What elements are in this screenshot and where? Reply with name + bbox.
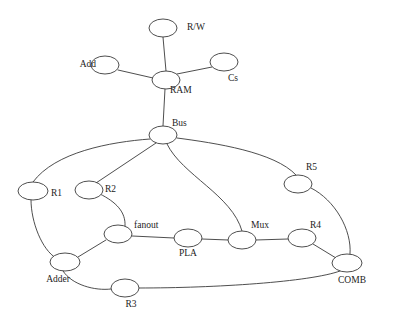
graph-node-label-cs: Cs: [228, 73, 238, 83]
graph-node-r1[interactable]: [18, 182, 48, 200]
graph-edge-fanout-pla: [132, 236, 174, 238]
graph-node-rw[interactable]: [149, 19, 177, 37]
graph-node-comb[interactable]: [332, 254, 362, 272]
graph-edge-fanout-adder: [78, 240, 106, 257]
graph-node-label-r3: R3: [125, 299, 136, 309]
label-layer: R/WAddRAMCsBusR1R2R5fanoutPLAMuxR4AdderR…: [46, 22, 366, 309]
graph-edge-r3-comb: [139, 271, 340, 288]
graph-edge-pla-mux: [202, 239, 228, 240]
graph-node-cs[interactable]: [210, 53, 238, 71]
graph-node-label-adder: Adder: [46, 274, 71, 284]
graph-node-label-mux: Mux: [251, 220, 269, 230]
graph-edge-adder-r3: [63, 271, 111, 289]
graph-node-label-r1: R1: [51, 188, 62, 198]
graph-node-mux[interactable]: [228, 231, 256, 249]
graph-node-bus[interactable]: [149, 126, 177, 144]
graph-node-label-bus: Bus: [172, 118, 187, 128]
graph-node-label-comb: COMB: [338, 275, 366, 285]
graph-edge-r2-fanout: [100, 194, 125, 226]
graph-node-fanout[interactable]: [104, 225, 132, 243]
graph-edge-mux-r4: [256, 239, 288, 240]
graph-edge-bus-mux: [167, 144, 242, 231]
graph-node-label-add: Add: [80, 59, 97, 69]
graph-edge-ram-bus: [163, 89, 165, 126]
graph-node-label-pla: PLA: [179, 248, 197, 258]
graph-node-pla[interactable]: [174, 229, 202, 247]
graph-diagram-canvas: R/WAddRAMCsBusR1R2R5fanoutPLAMuxR4AdderR…: [0, 0, 394, 325]
graph-node-r3[interactable]: [111, 279, 139, 297]
graph-node-label-r2: R2: [105, 184, 116, 194]
graph-edge-r1-adder: [31, 200, 56, 258]
graph-node-label-ram: RAM: [170, 85, 192, 95]
graph-edge-r4-comb: [313, 244, 336, 258]
graph-edge-ram-cs: [177, 67, 212, 74]
graph-node-r2[interactable]: [75, 181, 103, 199]
graph-svg: R/WAddRAMCsBusR1R2R5fanoutPLAMuxR4AdderR…: [0, 0, 394, 325]
graph-node-label-rw: R/W: [187, 22, 205, 32]
graph-edge-bus-r5: [177, 138, 296, 175]
graph-edge-rw-ram: [163, 37, 166, 71]
graph-edge-bus-r2: [96, 143, 156, 183]
graph-node-label-r5: R5: [306, 162, 317, 172]
graph-node-label-fanout: fanout: [134, 220, 159, 230]
graph-node-r5[interactable]: [284, 175, 312, 193]
graph-node-r4[interactable]: [288, 229, 316, 247]
graph-edge-add-ram: [118, 70, 153, 78]
graph-edge-bus-r1: [33, 139, 150, 182]
graph-node-adder[interactable]: [50, 253, 80, 271]
graph-node-label-r4: R4: [310, 220, 321, 230]
